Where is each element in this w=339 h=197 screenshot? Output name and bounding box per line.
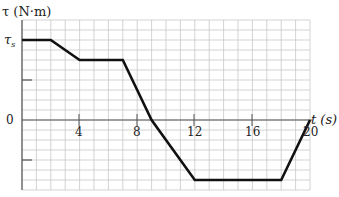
x-axis-label: t (s) [311,112,337,127]
x-tick-label-4: 4 [75,125,83,139]
x-tick-label-8: 8 [133,125,141,139]
grid [22,20,310,190]
torque-time-chart: τ (N·m) τs 0 4 8 12 16 20 t (s) [0,0,339,197]
zero-label: 0 [6,113,14,127]
y-axis-label: τ (N·m) [2,4,51,19]
x-tick-label-16: 16 [245,125,260,139]
x-tick-label-12: 12 [187,125,202,139]
x-tick-label-20: 20 [303,125,318,139]
tau-s-label: τs [4,32,15,49]
